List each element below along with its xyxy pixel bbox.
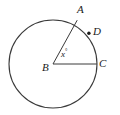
- angle-label-x: x°: [61, 47, 67, 59]
- geometry-figure: A D B C x°: [0, 0, 120, 115]
- point-label-c: C: [99, 58, 106, 69]
- point-label-d: D: [93, 26, 101, 37]
- degree-symbol: °: [65, 48, 67, 54]
- point-label-a: A: [77, 4, 84, 15]
- point-label-b: B: [42, 62, 49, 73]
- point-marker-D: [87, 32, 90, 35]
